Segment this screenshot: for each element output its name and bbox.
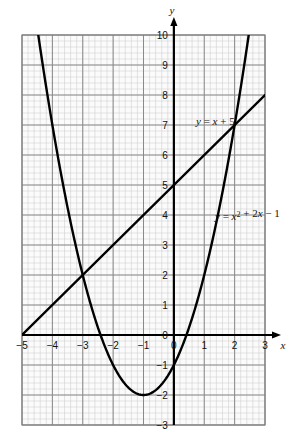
y-tick-label: −3 xyxy=(156,420,168,431)
y-tick-label: 10 xyxy=(157,30,169,41)
y-tick-label: 0 xyxy=(162,330,168,341)
y-tick-label: 9 xyxy=(162,60,168,71)
x-tick-label: 2 xyxy=(232,340,238,351)
y-tick-label: 4 xyxy=(162,210,168,221)
x-tick-label: −4 xyxy=(47,340,59,351)
y-tick-label: 6 xyxy=(162,150,168,161)
y-tick-label: 8 xyxy=(162,90,168,101)
x-tick-label: −1 xyxy=(138,340,150,351)
y-tick-label: 1 xyxy=(162,300,168,311)
x-tick-label: −3 xyxy=(77,340,89,351)
x-tick-label: 0 xyxy=(171,340,177,351)
cartesian-plot-svg: −5−4−3−2−10123 109876543210−1−2−3 x y y … xyxy=(0,0,306,441)
y-tick-label: 5 xyxy=(162,180,168,191)
x-axis-name-label: x xyxy=(280,339,286,351)
y-axis-name-label: y xyxy=(169,4,175,16)
y-tick-label: −1 xyxy=(156,360,168,371)
linear-function-label: y = x + 5 xyxy=(195,115,235,127)
graph-figure: −5−4−3−2−10123 109876543210−1−2−3 x y y … xyxy=(0,0,306,441)
x-tick-label: −2 xyxy=(107,340,119,351)
y-tick-label: 2 xyxy=(162,270,168,281)
y-tick-label: 3 xyxy=(162,240,168,251)
x-tick-label: 1 xyxy=(201,340,207,351)
y-tick-label: −2 xyxy=(156,390,168,401)
y-tick-label: 7 xyxy=(162,120,168,131)
x-tick-label: −5 xyxy=(16,340,28,351)
x-tick-label: 3 xyxy=(262,340,268,351)
